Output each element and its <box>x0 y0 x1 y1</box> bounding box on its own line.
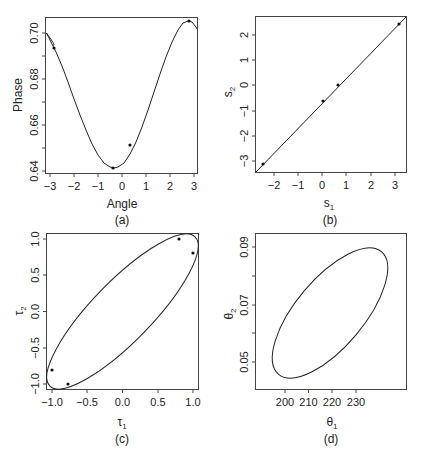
x-axis: −1.0 −0.5 0.0 0.5 1.0 <box>41 390 201 409</box>
panel-label: (a) <box>115 213 130 227</box>
data-point <box>321 99 324 102</box>
svg-text:210: 210 <box>299 396 317 408</box>
svg-text:θ2: θ2 <box>222 308 238 320</box>
x-axis-label: θ1 <box>326 415 338 431</box>
y-axis: 0.09 0.07 0.05 <box>238 236 256 372</box>
y-axis-label: θ2 <box>222 308 238 320</box>
svg-text:1: 1 <box>343 179 349 191</box>
y-axis-label: Phase <box>11 78 25 112</box>
svg-text:−1: −1 <box>238 105 250 118</box>
data-point <box>66 382 69 385</box>
x-axis-label: τ1 <box>117 415 127 431</box>
panel-label: (c) <box>115 432 129 446</box>
svg-text:1: 1 <box>143 180 149 192</box>
plot-frame <box>47 234 199 390</box>
y-axis: 2 1 0 −1 −2 −3 <box>238 32 256 167</box>
svg-text:2: 2 <box>167 180 173 192</box>
identity-line <box>256 17 406 172</box>
svg-text:−2: −2 <box>68 180 81 192</box>
svg-text:2: 2 <box>368 179 374 191</box>
svg-text:−3: −3 <box>238 155 250 168</box>
data-point <box>50 368 53 371</box>
data-point <box>177 237 180 240</box>
panel-label: (b) <box>323 213 338 227</box>
svg-text:3: 3 <box>191 180 197 192</box>
svg-text:0: 0 <box>119 180 125 192</box>
data-point <box>111 166 114 169</box>
svg-text:θ1: θ1 <box>326 415 338 431</box>
panel-c: −1.0 −0.5 0.0 0.5 1.0 1.0 0.5 0.0 −0.5 −… <box>12 216 217 446</box>
panel-a: −3 −2 −1 0 1 2 3 0.70 0.68 0.66 0.64 Ang… <box>11 18 198 228</box>
svg-text:0.0: 0.0 <box>115 396 130 408</box>
svg-text:−0.5: −0.5 <box>29 337 41 359</box>
svg-text:0.5: 0.5 <box>29 267 41 282</box>
svg-text:τ2: τ2 <box>12 306 28 316</box>
data-point <box>336 83 339 86</box>
svg-text:0: 0 <box>319 179 325 191</box>
svg-text:0.66: 0.66 <box>28 114 40 135</box>
confidence-ellipse <box>253 230 408 396</box>
y-axis-label: τ2 <box>12 306 28 316</box>
svg-text:1.0: 1.0 <box>29 231 41 246</box>
svg-text:s2: s2 <box>221 86 237 97</box>
data-point <box>52 46 55 49</box>
svg-text:−1: −1 <box>292 179 305 191</box>
svg-text:0.07: 0.07 <box>238 294 250 315</box>
x-axis: −2 −1 0 1 2 3 <box>268 173 398 192</box>
svg-text:0.64: 0.64 <box>28 160 40 181</box>
svg-text:τ1: τ1 <box>117 415 127 431</box>
plot-frame <box>46 18 198 174</box>
data-point <box>187 19 190 22</box>
svg-text:1.0: 1.0 <box>185 396 200 408</box>
svg-text:−1: −1 <box>92 180 105 192</box>
svg-text:−1.0: −1.0 <box>29 373 41 395</box>
y-axis: 0.70 0.68 0.66 0.64 <box>28 22 46 181</box>
panel-label: (d) <box>324 432 339 446</box>
figure: −3 −2 −1 0 1 2 3 0.70 0.68 0.66 0.64 Ang… <box>0 0 421 456</box>
plot-frame <box>256 234 407 390</box>
svg-text:−2: −2 <box>238 130 250 143</box>
svg-text:−3: −3 <box>44 180 57 192</box>
svg-text:0.0: 0.0 <box>29 304 41 319</box>
data-point <box>191 251 194 254</box>
x-axis-label: s1 <box>324 196 335 212</box>
svg-text:230: 230 <box>347 396 365 408</box>
svg-text:0.70: 0.70 <box>28 22 40 43</box>
svg-text:−1.0: −1.0 <box>41 396 63 408</box>
data-point <box>128 143 131 146</box>
svg-text:s1: s1 <box>324 196 335 212</box>
x-axis-label: Angle <box>107 197 138 211</box>
panel-b: −2 −1 0 1 2 3 2 1 0 −1 −2 −3 s1 s2 (b) <box>221 17 407 228</box>
phase-curve <box>47 21 198 168</box>
svg-text:200: 200 <box>276 396 294 408</box>
svg-text:2: 2 <box>238 32 250 38</box>
svg-text:3: 3 <box>392 179 398 191</box>
x-axis: −3 −2 −1 0 1 2 3 <box>44 174 197 193</box>
svg-text:0.5: 0.5 <box>150 396 165 408</box>
data-point <box>261 162 264 165</box>
svg-text:220: 220 <box>323 396 341 408</box>
svg-text:0.05: 0.05 <box>238 351 250 372</box>
panel-d: 200 210 220 230 0.09 0.07 0.05 θ1 θ2 (d) <box>222 230 407 446</box>
svg-text:−0.5: −0.5 <box>76 396 98 408</box>
ellipse-curve <box>28 216 216 407</box>
svg-text:1: 1 <box>238 57 250 63</box>
x-axis: 200 210 220 230 <box>276 390 365 409</box>
y-axis: 1.0 0.5 0.0 −0.5 −1.0 <box>29 231 47 395</box>
y-axis-label: s2 <box>221 86 237 97</box>
svg-text:0: 0 <box>238 82 250 88</box>
svg-text:0.09: 0.09 <box>238 236 250 257</box>
data-point <box>397 22 400 25</box>
svg-text:−2: −2 <box>268 179 281 191</box>
svg-text:0.68: 0.68 <box>28 68 40 89</box>
